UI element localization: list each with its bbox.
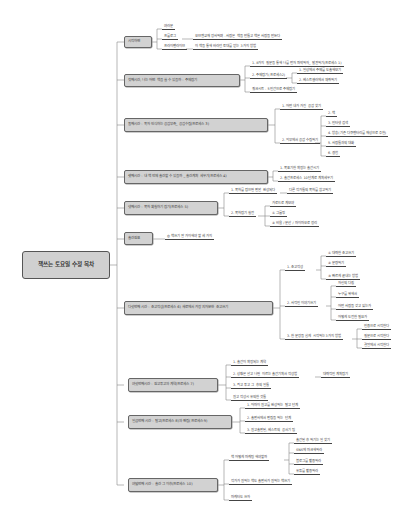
subtopic-detail[interactable]: 결말에서 시작한다 — [362, 344, 391, 349]
subtopic-detail[interactable]: ① 그룹핑 — [270, 212, 287, 217]
branch-topic-4[interactable]: 넷째시간 - 목차 확실하기 잡기(프로세스 5) — [124, 201, 218, 215]
branch-topic-intro[interactable]: 시작하면 — [124, 36, 152, 48]
branch-topic-7[interactable]: 여섯번째시간 - 원고투고와 계약(프로세스 7) — [128, 378, 218, 392]
subtopic-detail[interactable]: 어떻게 도전한 필요가 — [336, 316, 369, 321]
subtopic-detail[interactable]: 유튜를 활용하라 — [294, 470, 320, 475]
subtopic-detail[interactable]: ① 대략한 초고쓰기 — [326, 252, 356, 257]
subtopic-detail[interactable]: 6. 경험 — [326, 152, 340, 157]
subtopic[interactable]: 3. 한 문장을 쉽게 시작하는 3가지 방법 — [285, 335, 343, 340]
subtopic-detail[interactable]: 4. 방송(기존 다큐멘터리를 재상으로 추천) — [326, 132, 388, 137]
subtopic-detail[interactable]: 3. 인터넷 검색 — [326, 122, 350, 127]
subtopic[interactable]: 1. 아마이 원고를 완성하는 탈고 단계 — [245, 404, 300, 409]
subtopic-detail[interactable]: 오브젠교재 장사하며 - 사람은 책을 만들고 책은 사람을 만든다 — [193, 35, 282, 40]
subtopic[interactable]: 여러분 — [162, 25, 175, 30]
subtopic-detail[interactable]: 출간된 후 하기는 일 찾기 — [294, 439, 332, 444]
subtopic[interactable]: 1. 목차를 잡으면 편안 완성되다 — [229, 189, 277, 194]
subtopic-detail[interactable]: ③ 빠르게 끝내는 방법 — [326, 275, 360, 280]
subtopic-detail[interactable]: 다른 작가들의 목차를 참고하기 — [287, 189, 333, 194]
subtopic[interactable]: 1. 초고작성 — [285, 266, 305, 271]
subtopic-detail[interactable]: 2. 책 — [326, 112, 337, 117]
root-label: 책쓰는 토요일 수정 목차 — [38, 262, 94, 268]
branch-topic-1[interactable]: 첫째시간, 나는 어떤 책을 쓸 수 있을까 - 주제잡기 — [124, 74, 240, 87]
subtopic-detail[interactable]: 이 책을 통해 바라던 토대를 얻는 3가지 방법 — [193, 45, 258, 50]
subtopic[interactable]: 작가가 원하는 책도 출판사가 원하는 책쓰기 — [229, 480, 292, 485]
subtopic[interactable]: 2. 주제잡기(프로세스2) — [250, 74, 287, 79]
subtopic-detail[interactable]: 1. 일상에서 주제를 도출해보기 — [297, 69, 343, 74]
subtopic[interactable]: ◎ 책쓰기 잘 가이해야 할 세 가지 — [165, 235, 214, 240]
subtopic-detail[interactable]: SNS에 마크해하라 — [294, 449, 324, 454]
subtopic-detail[interactable]: 대략적인 계획잡기 — [321, 373, 350, 378]
subtopic-detail[interactable]: 인용으로 시작한다 — [362, 325, 391, 330]
subtopic-detail[interactable]: ② 비율 / 분산 / 마이마오로 정리 — [270, 222, 319, 227]
subtopic-detail[interactable]: 2. 베스트셀러에서 채취하기 — [297, 79, 339, 84]
root-topic[interactable]: 책쓰는 토요일 수정 목차 — [22, 251, 110, 279]
branch-topic-5[interactable]: 출간원표 — [124, 232, 153, 245]
mind-map: 책쓰는 토요일 수정 목차 시작하면 여러분 프롤로그 오브젠교재 장사하며 -… — [0, 0, 419, 524]
branch-topic-6[interactable]: 다섯번째 시간 - 초고작성(프로세스 6) 새로에서 가장 지저분한 초고쓰기 — [124, 301, 273, 315]
subtopic[interactable]: 2. 출판사에서 편집을 하는 단계 — [245, 417, 293, 422]
subtopic[interactable]: 2. 사적인 이야기쓰기 — [285, 302, 318, 307]
subtopic[interactable]: 1. 8가지 질문을 통해 나를 먼저 파악하자_ 발견하기(프로세스 1) — [250, 62, 344, 67]
subtopic[interactable]: 원고 작성시 유의한 것들 — [231, 396, 268, 401]
subtopic[interactable]: 3. 원고출판된, 베스트의 공서기 팁 — [245, 429, 297, 434]
subtopic-detail[interactable]: 질문으로 시작한다 — [362, 335, 391, 340]
subtopic-detail[interactable]: 가로드로 계보야 — [270, 202, 296, 207]
subtopic-detail[interactable]: ② 분량하기 — [326, 262, 346, 267]
subtopic-detail[interactable]: 누구를 위해서 — [336, 293, 359, 298]
subtopic[interactable]: 책 어떻게 마케팅 해야할까 — [229, 456, 269, 461]
subtopic[interactable]: 2. 목차잡기 실전 — [229, 212, 256, 217]
subtopic[interactable]: 프라이팬라이브 — [162, 45, 187, 50]
subtopic-detail[interactable]: 자신의 다짐 — [336, 282, 356, 287]
subtopic[interactable]: 1. 어떤 내가 가진 공감 찾기 — [280, 105, 323, 110]
subtopic-detail[interactable]: 블로그를 활용하라 — [294, 460, 323, 465]
subtopic[interactable]: 마케터도 쓰자 — [229, 496, 252, 501]
branch-topic-8[interactable]: 일곱번째 시간 - 탈고(프로세스 8)와 편집(프로세스 9) — [128, 415, 232, 429]
subtopic-detail[interactable]: 어떤 사람을 갖고 있는가 — [336, 305, 373, 310]
subtopic[interactable]: 1. 출간이 확정되는 계약 — [231, 361, 268, 366]
subtopic[interactable]: 2. 외부에서 공감 수집하기 — [280, 139, 320, 144]
subtopic[interactable]: 2. 상황은 알고 나면 이르는 출간기획서 작성법 — [231, 373, 299, 378]
subtopic[interactable]: 2. 출간프로세스 10단계로 계획세우기 — [278, 177, 335, 182]
subtopic[interactable]: 워크시트 - 5인간으로 주제잡기 — [250, 88, 297, 93]
branch-topic-2[interactable]: 둘째시간 - 독자 인식하는 공감부족_ 공감수집(프로세스 3) — [124, 118, 268, 132]
branch-topic-3[interactable]: 셋째시간 - 내 책 언제 출간할 수 있을까 _ 출간계획 세우기(프로세스 … — [124, 170, 268, 184]
subtopic[interactable]: 1. 목표기한 확정는 출간시기 — [278, 167, 321, 172]
subtopic[interactable]: 3. 최고 투고 그 후의 일들 — [231, 384, 271, 389]
subtopic[interactable]: 프롤로그 — [162, 35, 178, 40]
branch-topic-9[interactable]: 여덟번째 시간 - 출간 그 이후(프로세스 10) — [128, 478, 218, 492]
subtopic-detail[interactable]: 5. 사람들과의 대화 — [326, 142, 356, 147]
